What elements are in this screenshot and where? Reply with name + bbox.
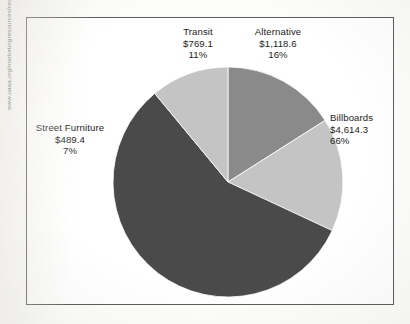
scanned-page: www.oaaa.org/marketingresources/revenue/… bbox=[0, 0, 410, 324]
pie-label-street-furniture-name: Street Furniture bbox=[24, 122, 116, 134]
pie-label-billboards-name: Billboards bbox=[330, 112, 408, 124]
pie-label-transit-percent: 11% bbox=[160, 49, 236, 61]
pie-label-street-furniture-percent: 7% bbox=[24, 145, 116, 157]
pie-label-street-furniture: Street Furniture $489.4 7% bbox=[24, 122, 116, 157]
pie-slice-group bbox=[113, 67, 343, 297]
pie-label-transit-name: Transit bbox=[160, 26, 236, 38]
pie-label-transit-value: $769.1 bbox=[160, 38, 236, 50]
pie-label-alternative: Alternative $1,118.6 16% bbox=[232, 26, 324, 61]
pie-label-alternative-percent: 16% bbox=[232, 49, 324, 61]
pie-label-billboards-value: $4,614.3 bbox=[330, 124, 408, 136]
pie-label-alternative-value: $1,118.6 bbox=[232, 38, 324, 50]
pie-label-street-furniture-value: $489.4 bbox=[24, 134, 116, 146]
pie-label-billboards: Billboards $4,614.3 66% bbox=[330, 112, 408, 147]
pie-label-billboards-percent: 66% bbox=[330, 135, 408, 147]
pie-label-transit: Transit $769.1 11% bbox=[160, 26, 236, 61]
source-url-watermark: www.oaaa.org/marketingresources/revenue/… bbox=[5, 0, 12, 110]
pie-label-alternative-name: Alternative bbox=[232, 26, 324, 38]
